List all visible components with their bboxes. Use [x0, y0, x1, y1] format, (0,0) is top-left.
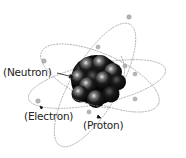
electron-7 [133, 97, 137, 101]
label-neutron: (Neutron) [3, 67, 52, 78]
neutron-pointer [57, 73, 69, 76]
atom-diagram [0, 0, 186, 158]
label-proton: (Proton) [83, 120, 123, 131]
electron-1 [127, 15, 132, 20]
label-electron: (Electron) [24, 111, 73, 122]
electron-8 [87, 110, 91, 114]
electron-2 [42, 59, 47, 64]
proton-pointer [97, 115, 101, 118]
electron-3 [96, 45, 100, 49]
electron-4 [123, 64, 127, 68]
nucleus [71, 55, 127, 108]
electron-pointer [40, 106, 43, 109]
electron-5 [133, 72, 137, 76]
electron-6 [36, 99, 41, 104]
